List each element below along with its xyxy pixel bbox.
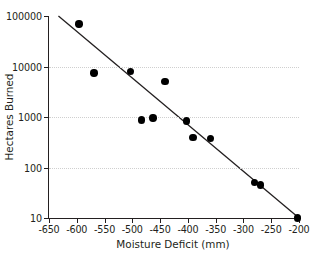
x-tick-label-neg300: -300 bbox=[233, 224, 254, 235]
x-tick-label-neg550: -550 bbox=[94, 224, 115, 235]
x-tick-label-neg200: -200 bbox=[289, 224, 310, 235]
x-tick-label-neg500: -500 bbox=[122, 224, 143, 235]
y-tick-label-10000: 10000 bbox=[12, 61, 42, 72]
x-tick-neg600 bbox=[77, 218, 78, 223]
x-tick-neg350 bbox=[216, 218, 217, 223]
x-tick-neg500 bbox=[132, 218, 133, 223]
x-tick-neg650 bbox=[49, 218, 50, 223]
y-tick-label-10: 10 bbox=[30, 213, 42, 224]
x-tick-label-neg450: -450 bbox=[150, 224, 171, 235]
y-tick-1000 bbox=[44, 117, 49, 118]
x-tick-neg300 bbox=[243, 218, 244, 223]
y-tick-100000 bbox=[44, 16, 49, 17]
y-tick-label-100: 100 bbox=[24, 162, 42, 173]
x-tick-neg450 bbox=[160, 218, 161, 223]
y-tick-10000 bbox=[44, 67, 49, 68]
data-point bbox=[257, 181, 264, 188]
data-point bbox=[90, 69, 97, 76]
x-tick-neg250 bbox=[271, 218, 272, 223]
x-tick-label-neg650: -650 bbox=[39, 224, 60, 235]
y-axis-title: Hectares Burned bbox=[2, 16, 15, 218]
gridline-100 bbox=[49, 168, 299, 169]
plot-area: 100000 10000 1000 100 10 -650 -600 -550 … bbox=[48, 16, 299, 219]
x-tick-label-neg400: -400 bbox=[177, 224, 198, 235]
gridline-10000 bbox=[49, 67, 299, 68]
figure-container: 100000 10000 1000 100 10 -650 -600 -550 … bbox=[0, 0, 317, 257]
x-tick-neg400 bbox=[188, 218, 189, 223]
data-point bbox=[149, 114, 156, 121]
y-tick-label-1000: 1000 bbox=[18, 112, 42, 123]
data-point bbox=[138, 116, 145, 123]
x-tick-label-neg350: -350 bbox=[205, 224, 226, 235]
x-tick-label-neg600: -600 bbox=[66, 224, 87, 235]
data-point bbox=[294, 214, 301, 221]
data-point bbox=[75, 20, 82, 27]
x-axis-title: Moisture Deficit (mm) bbox=[48, 238, 298, 250]
x-tick-neg550 bbox=[105, 218, 106, 223]
gridline-1000 bbox=[49, 117, 299, 118]
data-point bbox=[189, 134, 196, 141]
y-tick-100 bbox=[44, 168, 49, 169]
x-tick-label-neg250: -250 bbox=[261, 224, 282, 235]
